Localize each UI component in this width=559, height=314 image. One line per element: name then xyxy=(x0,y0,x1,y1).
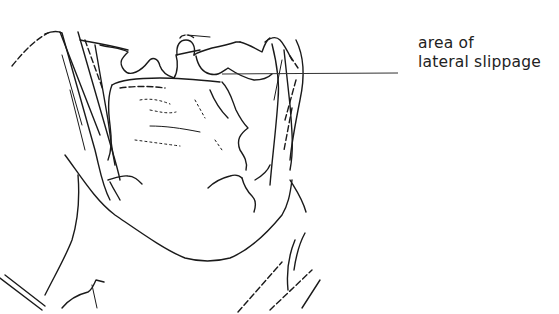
lower-contour xyxy=(45,155,306,295)
right-tissue-folds xyxy=(270,40,303,185)
lower-creases xyxy=(108,165,270,212)
annotation-leader-line xyxy=(222,73,398,74)
anatomical-illustration xyxy=(0,0,559,314)
annotation-label-line2: lateral slippage xyxy=(418,53,541,72)
left-tissue-folds xyxy=(12,32,128,200)
annotation-label-line1: area of xyxy=(418,34,474,53)
central-mass xyxy=(108,78,248,170)
